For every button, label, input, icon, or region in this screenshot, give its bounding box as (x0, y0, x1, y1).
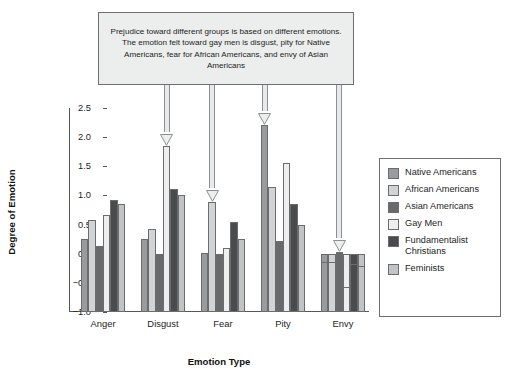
bar (141, 239, 148, 312)
bar (268, 187, 275, 312)
legend-item: Asian Americans (388, 201, 494, 213)
callout-box: Prejudice toward different groups is bas… (98, 12, 354, 85)
legend-swatch (388, 202, 399, 213)
legend-label: Fundamentalist Christians (405, 235, 494, 258)
y-tick-mark (103, 137, 107, 138)
x-tick-label: Anger (90, 318, 115, 329)
arrow-shaft (262, 85, 268, 111)
legend-label: African Americans (405, 184, 479, 195)
bar (261, 125, 268, 312)
bar-negative-cap (358, 266, 365, 267)
bar (110, 200, 117, 312)
bar (298, 225, 305, 312)
bar (103, 215, 110, 312)
bar (350, 254, 357, 312)
bar (290, 204, 297, 312)
plot-area: −1.0−0.50.00.51.01.52.02.5 AngerDisgustF… (69, 108, 369, 312)
bar (343, 254, 350, 312)
legend-swatch (388, 185, 399, 196)
x-tick-label: Fear (213, 318, 232, 329)
y-tick-label: 2.5 (78, 103, 91, 113)
y-tick-mark (103, 166, 107, 167)
bar (283, 163, 290, 312)
legend-swatch (388, 219, 399, 230)
bar (156, 254, 163, 312)
bar-negative-cap (328, 262, 335, 263)
bar (118, 204, 125, 312)
bar (163, 146, 170, 312)
bar (208, 202, 215, 312)
bar (230, 222, 237, 312)
y-tick-label: 1.5 (78, 161, 91, 171)
legend-label: Gay Men (405, 218, 442, 229)
bar (201, 253, 208, 312)
legend: Native AmericansAfrican AmericansAsian A… (379, 158, 501, 317)
y-tick-mark (103, 108, 107, 109)
legend-item: Native Americans (388, 167, 494, 179)
y-tick-label: 1.0 (78, 190, 91, 200)
legend-label: Feminists (405, 263, 444, 274)
bar-negative-cap (321, 262, 328, 263)
bar (358, 254, 365, 312)
bar (178, 195, 185, 312)
bar (170, 189, 177, 312)
legend-label: Native Americans (405, 167, 477, 178)
callout-text: Prejudice toward different groups is bas… (106, 26, 346, 71)
legend-swatch (388, 264, 399, 275)
bar-negative-cap (350, 264, 357, 265)
bar (96, 246, 103, 312)
legend-item: African Americans (388, 184, 494, 196)
bar-negative-cap (343, 287, 350, 288)
chart-figure: Prejudice toward different groups is bas… (0, 0, 508, 380)
bar (216, 254, 223, 312)
legend-item: Gay Men (388, 218, 494, 230)
y-tick-mark (103, 195, 107, 196)
legend-swatch (388, 168, 399, 179)
x-tick-label: Pity (275, 318, 291, 329)
legend-item: Feminists (388, 263, 494, 275)
y-tick-mark (103, 312, 107, 313)
legend-swatch (388, 236, 399, 247)
bar (276, 241, 283, 312)
x-tick-label: Envy (333, 318, 354, 329)
bar-negative-cap (216, 260, 223, 261)
bar (148, 229, 155, 312)
y-tick-label: 2.0 (78, 132, 91, 142)
bar (81, 239, 88, 312)
y-axis-title: Degree of Emotion (6, 169, 17, 254)
bar (336, 252, 343, 312)
bar (223, 248, 230, 312)
legend-item: Fundamentalist Christians (388, 235, 494, 258)
x-axis-title: Emotion Type (188, 356, 251, 367)
bar (88, 220, 95, 312)
x-tick-label: Disgust (147, 318, 178, 329)
legend-label: Asian Americans (405, 201, 473, 212)
bar (238, 239, 245, 312)
